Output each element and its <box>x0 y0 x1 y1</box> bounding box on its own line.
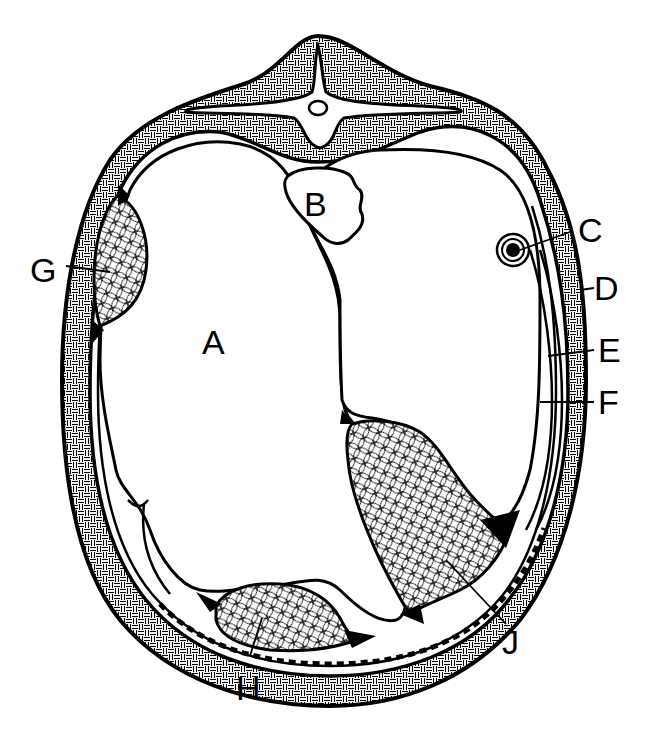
structure-c <box>497 234 529 266</box>
label-b: B <box>304 185 327 223</box>
label-a: A <box>202 323 225 361</box>
label-h: H <box>236 669 261 707</box>
label-e: E <box>598 331 621 369</box>
label-j: J <box>502 623 519 661</box>
label-f: F <box>598 383 619 421</box>
label-g: G <box>30 251 56 289</box>
label-d: D <box>594 269 619 307</box>
label-c: C <box>578 211 603 249</box>
anatomical-cross-section-diagram: B A G C D E F H J <box>0 0 646 744</box>
